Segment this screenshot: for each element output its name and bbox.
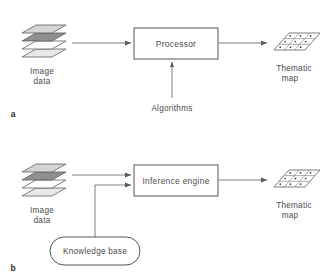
image-stack-b <box>22 164 66 196</box>
arrow-knowledge-base-to-inference-engine <box>95 185 131 237</box>
diagram-canvas: Processor Image data Thematic map Algori… <box>0 0 326 277</box>
thematic-map-a <box>274 33 320 50</box>
stack-layer-3 <box>22 180 66 188</box>
thematic-map-label-line1: Thematic <box>276 201 312 210</box>
map-dot <box>305 41 307 43</box>
stack-layer-4 <box>22 188 66 196</box>
image-stack-a <box>22 25 66 57</box>
map-dot <box>284 41 286 43</box>
knowledge-base-label: Knowledge base <box>63 247 127 256</box>
map-dot <box>279 183 281 185</box>
map-dot <box>310 172 312 174</box>
stack-layer-1 <box>22 164 66 172</box>
thematic-map-label-line1: Thematic <box>276 64 312 73</box>
panel-letter-a: a <box>11 109 16 119</box>
map-dot <box>295 41 297 43</box>
processor-box-label: Processor <box>156 39 196 49</box>
panel-b: Inference engine Image data Thematic map… <box>10 164 320 273</box>
image-data-label-line2: data <box>34 216 51 225</box>
panel-a: Processor Image data Thematic map Algori… <box>11 25 320 119</box>
stack-layer-3 <box>22 41 66 49</box>
image-data-label-line2: data <box>34 77 51 86</box>
map-dot <box>289 172 291 174</box>
thematic-map-label-line2: map <box>282 211 299 220</box>
stack-layer-1 <box>22 25 66 33</box>
map-dot <box>300 183 302 185</box>
map-dot <box>289 35 291 37</box>
map-dot <box>300 35 302 37</box>
stack-layer-4 <box>22 49 66 57</box>
image-data-label-line1: Image <box>30 206 54 215</box>
map-dot <box>295 178 297 180</box>
map-dot <box>279 46 281 48</box>
map-dot <box>300 46 302 48</box>
map-dot <box>290 183 292 185</box>
map-dot <box>290 46 292 48</box>
map-dot <box>284 178 286 180</box>
image-data-label-line1: Image <box>30 67 54 76</box>
inference-engine-box-label: Inference engine <box>142 176 209 186</box>
map-dot <box>305 178 307 180</box>
figure-diagram: Processor Image data Thematic map Algori… <box>0 0 326 277</box>
thematic-map-b <box>274 170 320 187</box>
thematic-map-label-line2: map <box>282 74 299 83</box>
map-dot <box>310 35 312 37</box>
algorithms-label: Algorithms <box>151 104 192 113</box>
panel-letter-b: b <box>10 263 15 273</box>
map-dot <box>300 172 302 174</box>
stack-layer-2 <box>22 172 66 180</box>
stack-layer-2 <box>22 33 66 41</box>
